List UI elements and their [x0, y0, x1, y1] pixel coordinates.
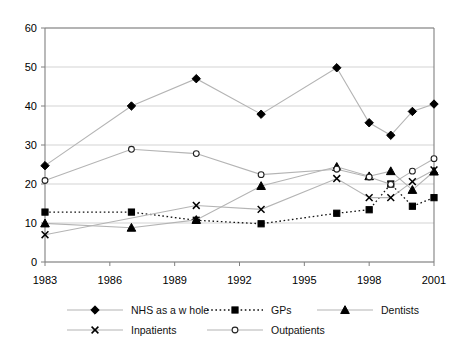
- legend-label: Dentists: [381, 304, 419, 316]
- y-tick-label: 30: [25, 139, 37, 151]
- chart-root: 0102030405060 19831986198919921995199820…: [0, 0, 465, 346]
- data-point-open-circle: [129, 146, 135, 152]
- x-tick-label: 1995: [292, 274, 316, 286]
- legend-marker-filled-square: [232, 307, 238, 313]
- legend-label: Outpatients: [271, 324, 325, 336]
- y-tick-label: 0: [31, 256, 37, 268]
- series-inpatients: [42, 167, 438, 239]
- data-point-filled-diamond: [365, 119, 373, 127]
- data-point-filled-diamond: [127, 102, 135, 110]
- legend-marker-filled-diamond: [91, 306, 99, 314]
- legend-label: GPs: [271, 304, 291, 316]
- data-point-filled-square: [258, 221, 264, 227]
- line-chart: 0102030405060 19831986198919921995199820…: [0, 0, 465, 346]
- data-point-filled-diamond: [257, 110, 265, 118]
- series-line: [45, 149, 434, 184]
- y-tick-label: 50: [25, 61, 37, 73]
- y-tick-label: 20: [25, 178, 37, 190]
- series-nhs-as-a-w-hole: [41, 64, 438, 170]
- data-point-open-circle: [193, 151, 199, 157]
- series-line: [45, 184, 434, 224]
- legend-item-gps: GPs: [207, 304, 291, 316]
- y-tick-label: 10: [25, 217, 37, 229]
- data-point-filled-square: [334, 210, 340, 216]
- gridlines: [45, 28, 434, 262]
- data-point-filled-diamond: [333, 64, 341, 72]
- data-point-open-circle: [431, 156, 437, 162]
- data-point-filled-diamond: [192, 75, 200, 83]
- legend-item-nhs-as-a-w-hole: NHS as a w hole: [67, 304, 209, 316]
- data-point-open-circle: [334, 166, 340, 172]
- x-tick-label: 1992: [227, 274, 251, 286]
- chart-legend: NHS as a w holeGPsDentistsInpatientsOutp…: [67, 304, 419, 336]
- data-point-open-circle: [366, 174, 372, 180]
- legend-label: Inpatients: [131, 324, 177, 336]
- data-point-filled-triangle: [386, 167, 395, 175]
- x-tick-label: 1989: [162, 274, 186, 286]
- data-point-open-circle: [42, 178, 48, 184]
- x-tick-label: 1998: [357, 274, 381, 286]
- series-dentists: [41, 163, 439, 232]
- data-point-filled-diamond: [41, 161, 49, 169]
- data-point-filled-square: [409, 203, 415, 209]
- y-axis-tick-labels: 0102030405060: [25, 22, 37, 268]
- legend-item-outpatients: Outpatients: [207, 324, 325, 336]
- data-point-filled-square: [128, 209, 134, 215]
- data-point-open-circle: [409, 168, 415, 174]
- x-axis-tick-labels: 1983198619891992199519982001: [33, 274, 446, 286]
- data-point-filled-square: [366, 207, 372, 213]
- data-point-filled-diamond: [430, 100, 438, 108]
- series-line: [45, 68, 434, 166]
- legend-item-inpatients: Inpatients: [67, 324, 177, 336]
- data-point-filled-square: [431, 195, 437, 201]
- y-tick-label: 60: [25, 22, 37, 34]
- legend-item-dentists: Dentists: [317, 304, 419, 316]
- data-point-filled-square: [42, 209, 48, 215]
- x-tick-label: 1983: [33, 274, 57, 286]
- x-tick-label: 1986: [98, 274, 122, 286]
- legend-label: NHS as a w hole: [131, 304, 209, 316]
- data-point-open-circle: [258, 172, 264, 178]
- x-tick-label: 2001: [422, 274, 446, 286]
- series-gps: [42, 181, 437, 227]
- y-tick-label: 40: [25, 100, 37, 112]
- series-outpatients: [42, 146, 437, 187]
- data-point-open-circle: [388, 181, 394, 187]
- axes: [41, 28, 434, 266]
- series-layer: [41, 64, 439, 239]
- legend-marker-open-circle: [232, 327, 238, 333]
